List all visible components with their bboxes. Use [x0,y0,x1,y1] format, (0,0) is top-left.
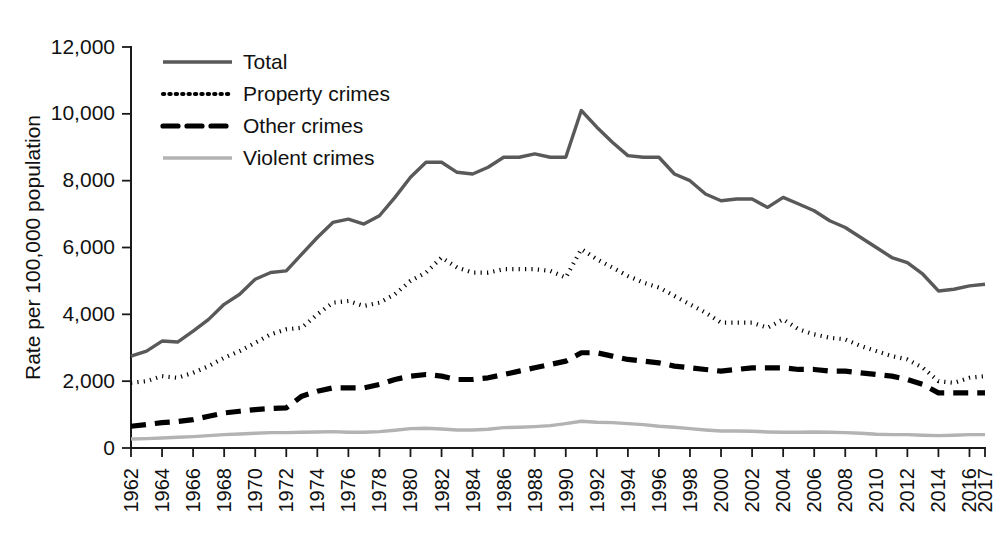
x-tick-label: 1980 [399,468,421,513]
x-tick-label: 1988 [524,468,546,513]
x-tick-label: 1968 [213,468,235,513]
chart-canvas: Rate per 100,000 population 02,0004,0006… [0,0,1001,537]
y-tick-label: 10,000 [51,101,115,124]
chart-legend: TotalProperty crimesOther crimesViolent … [163,50,390,169]
x-tick-label: 2008 [834,468,856,513]
x-tick-label: 1974 [306,468,328,513]
x-tick-label: 1994 [617,468,639,513]
legend-label-property-crimes: Property crimes [243,82,390,105]
y-axis-title: Rate per 100,000 population [21,115,44,380]
x-tick-label: 2010 [865,468,887,513]
x-tick-label: 1986 [493,468,515,513]
axis-lines-path [131,47,985,448]
legend-label-other-crimes: Other crimes [243,114,363,137]
x-tick-label: 1992 [586,468,608,513]
x-tick-label: 1984 [462,468,484,513]
x-tick-label: 1964 [151,468,173,513]
x-tick-label: 1998 [679,468,701,513]
x-tick-label: 1962 [120,468,142,513]
x-tick-label: 2004 [772,468,794,513]
y-tick-label: 6,000 [62,235,115,258]
x-tick-label: 1978 [368,468,390,513]
y-axis-title-text: Rate per 100,000 population [21,115,44,380]
x-tick-label: 1970 [244,468,266,513]
axis-lines [131,47,985,448]
series-line-violent-crimes [131,421,985,439]
x-tick-label: 1976 [337,468,359,513]
series-line-other-crimes [131,353,985,427]
y-tick-label: 2,000 [62,369,115,392]
x-tick-label: 1990 [555,468,577,513]
x-tick-label: 2017 [974,468,996,513]
y-tick-label: 0 [103,436,115,459]
legend-label-total: Total [243,50,287,73]
x-tick-label: 1972 [275,468,297,513]
x-axis-ticks: 1962196419661968197019721974197619781980… [120,448,996,513]
y-axis-ticks: 02,0004,0006,0008,00010,00012,000 [51,35,131,459]
x-tick-label: 1996 [648,468,670,513]
x-tick-label: 2014 [927,468,949,513]
x-tick-label: 2002 [741,468,763,513]
y-tick-label: 4,000 [62,302,115,325]
crime-rate-line-chart: Rate per 100,000 population 02,0004,0006… [0,0,1001,537]
x-tick-label: 1966 [182,468,204,513]
y-tick-label: 12,000 [51,35,115,58]
x-tick-label: 2000 [710,468,732,513]
y-tick-label: 8,000 [62,168,115,191]
x-tick-label: 2012 [896,468,918,513]
x-tick-label: 2006 [803,468,825,513]
legend-label-violent-crimes: Violent crimes [243,146,375,169]
x-tick-label: 1982 [431,468,453,513]
